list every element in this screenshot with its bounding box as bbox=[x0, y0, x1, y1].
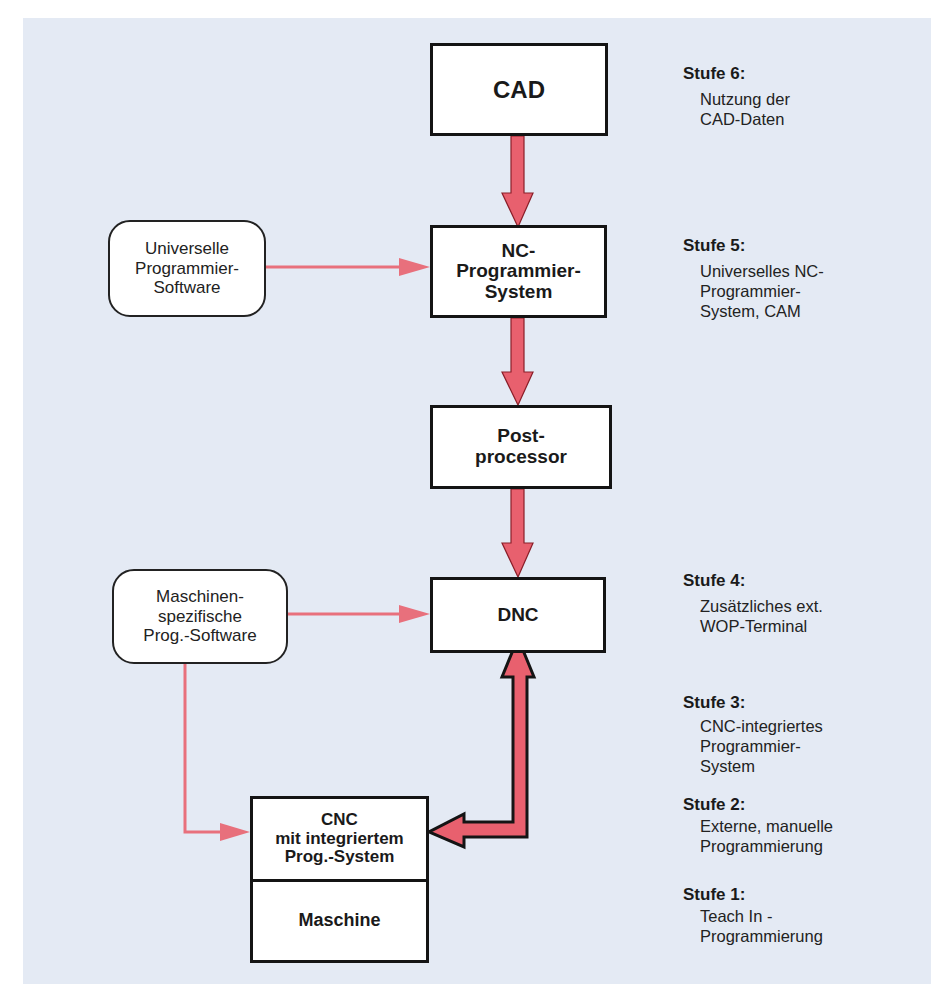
postprocessor-label: Post- processor bbox=[475, 426, 567, 467]
line-machine-specific-to-cnc bbox=[185, 664, 222, 832]
machine-label: Maschine bbox=[298, 911, 380, 930]
machine-specific-software-box: Maschinen- spezifische Prog.-Software bbox=[112, 569, 288, 664]
cnc-label: CNC mit integriertem Prog.-System bbox=[275, 811, 403, 866]
dnc-box: DNC bbox=[430, 577, 606, 653]
arrowhead-machine-specific-to-dnc bbox=[399, 605, 430, 623]
stage-2-title: Stufe 2: bbox=[683, 795, 833, 815]
stage-5-title: Stufe 5: bbox=[683, 236, 824, 256]
stage-4-title: Stufe 4: bbox=[683, 571, 823, 591]
universal-software-box: Universelle Programmier- Software bbox=[108, 220, 266, 317]
stage-6: Stufe 6: Nutzung der CAD-Daten bbox=[683, 64, 790, 130]
stage-1-description: Teach In - Programmierung bbox=[700, 907, 823, 947]
postprocessor-box: Post- processor bbox=[430, 405, 612, 489]
machine-box: Maschine bbox=[250, 879, 429, 963]
universal-software-label: Universelle Programmier- Software bbox=[135, 239, 239, 298]
stage-4: Stufe 4: Zusätzliches ext. WOP-Terminal bbox=[683, 571, 823, 637]
arrowhead-machine-specific-to-cnc bbox=[220, 823, 250, 841]
arrow-dnc-cnc-bidirectional bbox=[429, 638, 534, 847]
stage-3-title: Stufe 3: bbox=[683, 693, 823, 713]
cad-label: CAD bbox=[493, 77, 545, 103]
stage-4-description: Zusätzliches ext. WOP-Terminal bbox=[700, 597, 823, 637]
nc-programming-system-label: NC- Programmier- System bbox=[456, 241, 581, 303]
arrow-nc-to-post bbox=[502, 318, 533, 405]
arrow-post-to-dnc bbox=[502, 489, 533, 577]
stage-3-description: CNC-integriertes Programmier- System bbox=[700, 717, 823, 776]
nc-programming-system-box: NC- Programmier- System bbox=[430, 225, 607, 318]
stage-2: Stufe 2: Externe, manuelle Programmierun… bbox=[683, 795, 833, 857]
machine-specific-software-label: Maschinen- spezifische Prog.-Software bbox=[143, 587, 256, 646]
stage-3: Stufe 3: CNC-integriertes Programmier- S… bbox=[683, 693, 823, 776]
dnc-label: DNC bbox=[497, 605, 538, 626]
arrowhead-universal-to-nc bbox=[399, 258, 430, 276]
stage-5: Stufe 5: Universelles NC- Programmier- S… bbox=[683, 236, 824, 321]
stage-1-title: Stufe 1: bbox=[683, 885, 823, 905]
cad-box: CAD bbox=[430, 43, 608, 136]
stage-5-description: Universelles NC- Programmier- System, CA… bbox=[700, 262, 824, 321]
arrow-cad-to-nc bbox=[502, 136, 533, 227]
stage-6-title: Stufe 6: bbox=[683, 64, 790, 84]
stage-2-description: Externe, manuelle Programmierung bbox=[700, 817, 833, 857]
cnc-box: CNC mit integriertem Prog.-System bbox=[250, 796, 429, 882]
stage-6-description: Nutzung der CAD-Daten bbox=[700, 90, 790, 130]
stage-1: Stufe 1: Teach In - Programmierung bbox=[683, 885, 823, 947]
